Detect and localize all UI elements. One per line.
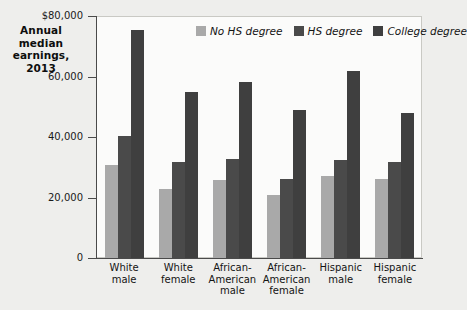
x-axis-label-line: female	[367, 274, 423, 286]
bar[interactable]	[375, 179, 388, 258]
x-axis-label-line: White	[96, 262, 152, 274]
x-axis-label: Whitemale	[96, 262, 152, 285]
bar-group	[267, 16, 306, 258]
y-tick-label-0: 0	[77, 253, 83, 263]
x-axis-label-line: Hispanic	[313, 262, 369, 274]
y-tick-0	[88, 258, 97, 259]
x-axis-label-line: American	[259, 274, 315, 286]
bar[interactable]	[185, 92, 198, 258]
bar[interactable]	[159, 189, 172, 258]
x-axis-label-line: male	[204, 285, 260, 297]
bar[interactable]	[213, 180, 226, 258]
x-axis-label: African-Americanfemale	[259, 262, 315, 297]
bar[interactable]	[280, 179, 293, 258]
x-axis-label-line: female	[259, 285, 315, 297]
bar[interactable]	[401, 113, 414, 258]
bar[interactable]	[293, 110, 306, 258]
title-line-0: Annual	[2, 24, 80, 37]
y-tick-20000	[88, 198, 97, 199]
bar[interactable]	[347, 71, 360, 258]
x-axis-label-line: African-	[204, 262, 260, 274]
x-axis-label: Hispanicmale	[313, 262, 369, 285]
bar-group	[321, 16, 360, 258]
title-line-2: earnings,	[2, 49, 80, 62]
y-tick-80000	[88, 16, 97, 17]
chart-title-axis-label: Annualmedianearnings,2013	[2, 24, 80, 74]
x-axis-label-line: Hispanic	[367, 262, 423, 274]
x-axis-label: African-Americanmale	[204, 262, 260, 297]
bar[interactable]	[105, 165, 118, 258]
bar-group	[105, 16, 144, 258]
bar[interactable]	[388, 162, 401, 258]
bar-group	[375, 16, 414, 258]
bar[interactable]	[118, 136, 131, 258]
x-axis-label: Hispanicfemale	[367, 262, 423, 285]
bar[interactable]	[334, 160, 347, 258]
y-tick-label-80000: $80,000	[42, 11, 83, 21]
x-axis-label-line: American	[204, 274, 260, 286]
bar-group	[159, 16, 198, 258]
bar[interactable]	[321, 176, 334, 258]
bar[interactable]	[239, 82, 252, 258]
y-tick-40000	[88, 137, 97, 138]
bar-groups	[97, 16, 422, 258]
x-axis-label-line: male	[96, 274, 152, 286]
bar[interactable]	[226, 159, 239, 258]
x-axis-label: Whitefemale	[150, 262, 206, 285]
x-axis-line	[96, 258, 423, 259]
x-axis-label-line: male	[313, 274, 369, 286]
title-line-1: median	[2, 37, 80, 50]
bar[interactable]	[131, 30, 144, 258]
bar-group	[213, 16, 252, 258]
bar[interactable]	[172, 162, 185, 258]
x-axis-label-line: female	[150, 274, 206, 286]
y-tick-label-60000: 60,000	[48, 72, 83, 82]
y-tick-label-40000: 40,000	[48, 132, 83, 142]
y-tick-label-20000: 20,000	[48, 193, 83, 203]
x-axis-label-line: White	[150, 262, 206, 274]
bar[interactable]	[267, 195, 280, 258]
y-tick-60000	[88, 77, 97, 78]
x-axis-label-line: African-	[259, 262, 315, 274]
